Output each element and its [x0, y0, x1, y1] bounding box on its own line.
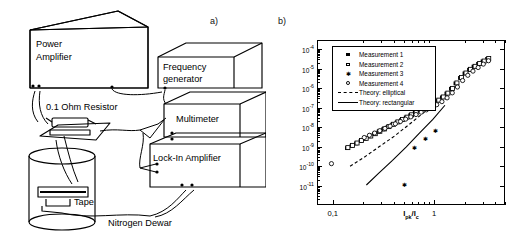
data-point-measurement-2 — [355, 141, 359, 145]
data-point-measurement-2 — [350, 143, 354, 147]
x-minor-tick — [418, 202, 419, 205]
y-minor-tick — [317, 130, 320, 131]
y-minor-tick — [317, 75, 320, 76]
y-major-tick-right — [500, 127, 505, 128]
panel-a-label: a) — [210, 16, 218, 26]
y-minor-tick — [317, 71, 320, 72]
y-minor-tick — [317, 176, 320, 177]
nitrogen-dewar-label: Nitrogen Dewar — [108, 218, 172, 228]
star-icon: ✱ — [337, 71, 359, 77]
data-point-measurement-4 — [440, 100, 444, 104]
legend-label: Measurement 1 — [359, 51, 403, 58]
y-minor-tick — [317, 174, 320, 175]
data-point-measurement-4 — [486, 59, 490, 63]
y-major-tick-right — [500, 147, 505, 148]
y-minor-tick — [317, 151, 320, 152]
y-tick-label: 10-8 — [302, 123, 314, 132]
y-minor-tick — [317, 89, 320, 90]
x-minor-tick — [394, 202, 395, 205]
y-minor-tick — [317, 96, 320, 97]
legend-item-measurement-4: Measurement 4 — [337, 79, 432, 89]
legend-item-theory-elliptical: Theory: elliptical — [337, 88, 432, 98]
y-minor-tick — [317, 135, 320, 136]
y-minor-tick — [317, 152, 320, 153]
y-minor-tick — [317, 55, 320, 56]
y-minor-tick — [317, 51, 320, 52]
panel-b-label: b) — [278, 16, 286, 26]
power-amplifier-label-line1: Power — [36, 39, 62, 49]
y-minor-tick — [317, 168, 320, 169]
x-minor-tick — [424, 202, 425, 205]
y-minor-tick — [317, 196, 320, 197]
schematic-drawing: Power Amplifier Frequency generator Mult… — [0, 0, 266, 244]
data-point-measurement-4 — [450, 91, 454, 95]
data-point-measurement-4 — [383, 126, 387, 130]
legend-label: Measurement 2 — [359, 61, 403, 68]
data-point-measurement-4 — [393, 122, 397, 126]
y-minor-tick — [317, 79, 320, 80]
y-minor-tick — [317, 73, 320, 74]
data-point-measurement-4 — [466, 73, 470, 77]
y-minor-tick — [317, 169, 320, 170]
resistor-label: 0.1 Ohm Resistor — [46, 102, 117, 112]
x-minor-tick-top — [429, 40, 430, 43]
x-minor-tick-top — [418, 40, 419, 43]
y-minor-tick — [317, 193, 320, 194]
y-minor-tick — [317, 82, 320, 83]
y-minor-tick — [317, 93, 320, 94]
y-minor-tick — [317, 121, 320, 122]
x-minor-tick — [381, 202, 382, 205]
y-minor-tick — [317, 131, 320, 132]
open-square-icon — [337, 63, 359, 66]
data-point-measurement-4 — [414, 112, 418, 116]
y-tick-label: 10-5 — [302, 64, 314, 73]
dashed-line-icon — [337, 92, 359, 93]
data-point-measurement-4 — [329, 162, 333, 166]
open-circle-icon — [337, 81, 359, 85]
data-point-measurement-3: ✱ — [433, 127, 438, 134]
y-minor-tick — [317, 191, 320, 192]
y-minor-tick — [317, 91, 320, 92]
x-minor-tick — [483, 202, 484, 205]
legend-label: Theory: rectangular — [359, 99, 414, 106]
y-minor-tick — [317, 52, 320, 53]
chart-legend: Measurement 1Measurement 2✱Measurement 3… — [332, 46, 436, 111]
x-minor-tick-top — [505, 40, 506, 43]
data-point-measurement-3: ✱ — [402, 181, 407, 188]
power-amplifier-label-line2: Amplifier — [36, 52, 72, 62]
legend-label: Measurement 4 — [359, 80, 403, 87]
data-point-measurement-4 — [367, 133, 371, 137]
x-minor-tick — [495, 202, 496, 205]
data-point-measurement-4 — [471, 69, 475, 73]
y-major-tick-right — [500, 186, 505, 187]
y-minor-tick — [317, 154, 320, 155]
legend-item-measurement-3: ✱Measurement 3 — [337, 69, 432, 79]
y-major-tick-right — [500, 69, 505, 70]
y-minor-tick — [317, 128, 320, 129]
x-minor-tick-top — [394, 40, 395, 43]
solid-line-icon — [337, 102, 359, 103]
legend-label: Theory: elliptical — [359, 89, 405, 96]
data-point-measurement-2 — [450, 86, 454, 90]
y-axis-title: Normalised ac loss per cycle ( Q / Iᴄ² ) — [224, 0, 233, 12]
y-major-tick-right — [500, 88, 505, 89]
y-major-tick-right — [500, 49, 505, 50]
y-minor-tick — [317, 111, 320, 112]
y-major-tick-right — [500, 166, 505, 167]
x-major-tick — [333, 200, 334, 205]
y-minor-tick — [317, 94, 320, 95]
y-minor-tick — [317, 157, 320, 158]
frequency-generator-label-line1: Frequency — [163, 62, 207, 72]
data-point-measurement-4 — [409, 115, 413, 119]
y-minor-tick — [317, 110, 320, 111]
y-minor-tick — [317, 133, 320, 134]
y-minor-tick — [317, 63, 320, 64]
data-point-measurement-4 — [461, 78, 465, 82]
y-minor-tick — [317, 112, 320, 113]
y-minor-tick — [317, 59, 320, 60]
legend-item-measurement-2: Measurement 2 — [337, 60, 432, 70]
legend-item-measurement-1: Measurement 1 — [337, 50, 432, 60]
y-minor-tick — [317, 160, 320, 161]
lock-in-amplifier-label: Lock-In Amplifier — [153, 153, 221, 163]
x-minor-tick-top — [404, 40, 405, 43]
